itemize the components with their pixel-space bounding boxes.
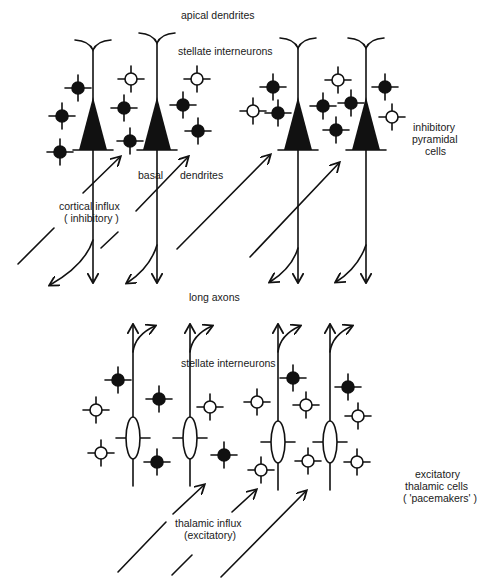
label-cortical-influx: cortical influx — [59, 200, 120, 212]
label-cells: cells — [425, 145, 446, 157]
axon-collaterals-top — [50, 240, 366, 285]
stellate-filled-icon — [335, 374, 361, 400]
stellate-open-icon — [83, 397, 109, 423]
label-stellate-interneurons-top: stellate interneurons — [178, 45, 273, 57]
apical-dendrite-fork — [280, 38, 316, 48]
thalamic-soma — [271, 421, 285, 463]
stellate-open-icon — [344, 449, 370, 475]
thalamic-soma — [126, 417, 140, 459]
stellate-open-icon — [240, 98, 266, 124]
diagram-canvas: apical dendrites stellate interneurons i… — [0, 0, 490, 587]
stellate-filled-icon — [265, 100, 291, 126]
stellate-filled-icon — [105, 367, 131, 393]
axon-collateral-up — [133, 326, 155, 352]
stellate-filled-icon — [372, 74, 398, 100]
stellate-filled-icon — [260, 74, 286, 100]
label-excitatory: excitatory — [415, 468, 461, 480]
pyramidal-soma — [143, 97, 171, 150]
label-thalamic-cells: thalamic cells — [405, 480, 468, 492]
stellate-filled-icon — [170, 92, 196, 118]
pyramidal-soma — [284, 97, 312, 150]
stellate-filled-icon — [280, 365, 306, 391]
stellate-filled-icon — [323, 117, 349, 143]
stellate-filled-icon — [111, 95, 137, 121]
label-dendrites: dendrites — [180, 169, 223, 181]
thalamic-soma — [323, 421, 337, 463]
axon-collateral-up — [330, 326, 352, 352]
apical-dendrite-fork — [348, 38, 384, 48]
axon-collateral-up — [278, 326, 300, 352]
label-inhibitory: inhibitory — [413, 121, 456, 133]
stellate-filled-icon — [310, 93, 336, 119]
label-cortical-influx-inhibitory: ( inhibitory ) — [64, 212, 119, 224]
stellate-open-icon — [184, 66, 210, 92]
label-stellate-interneurons-bottom: stellate interneurons — [181, 357, 276, 369]
stellate-filled-icon — [338, 90, 364, 116]
thalamic-cell — [313, 325, 352, 490]
pyramidal-cell — [278, 38, 318, 282]
stellate-filled-icon — [65, 75, 91, 101]
pyramidal-soma — [79, 97, 107, 150]
label-pacemakers: ( 'pacemakers' ) — [403, 492, 477, 504]
stellate-filled-icon — [49, 103, 75, 129]
label-pyramidal: pyramidal — [412, 133, 458, 145]
pyramidal-cell — [73, 40, 113, 282]
stellate-open-icon — [293, 392, 319, 418]
label-basal: basal — [138, 169, 163, 181]
stellate-open-icon — [197, 394, 223, 420]
apical-dendrite-fork — [75, 40, 111, 50]
stellate-open-icon — [345, 403, 371, 429]
thalamic-cell — [261, 325, 300, 490]
label-long-axons: long axons — [189, 291, 240, 303]
apical-dendrite-fork — [139, 33, 175, 43]
stellate-filled-icon — [185, 118, 211, 144]
stellate-filled-icon — [144, 449, 170, 475]
label-thalamic-influx-excitatory: (excitatory) — [184, 529, 236, 541]
axon-collateral-up — [190, 326, 212, 352]
stellate-filled-icon — [146, 386, 172, 412]
label-apical-dendrites: apical dendrites — [181, 9, 255, 21]
thalamic-soma — [183, 417, 197, 459]
label-thalamic-influx: thalamic influx — [175, 517, 242, 529]
stellate-open-icon — [325, 67, 351, 93]
stellate-filled-icon — [211, 442, 237, 468]
stellate-open-icon — [295, 448, 321, 474]
stellate-open-icon — [88, 440, 114, 466]
stellate-filled-icon — [47, 139, 73, 165]
stellate-open-icon — [244, 389, 270, 415]
stellate-open-icon — [248, 457, 274, 483]
stellate-open-icon — [379, 104, 405, 130]
stellate-open-icon — [118, 66, 144, 92]
